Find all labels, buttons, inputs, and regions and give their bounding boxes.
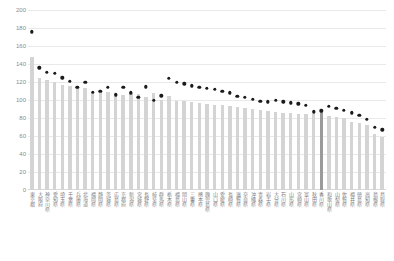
bar[interactable] [45, 80, 48, 190]
bar[interactable] [266, 111, 269, 190]
bar-slot[interactable] [76, 10, 79, 190]
bar[interactable] [106, 92, 109, 190]
bar[interactable] [358, 123, 361, 190]
bar-slot[interactable] [373, 10, 376, 190]
bar[interactable] [144, 97, 147, 190]
bar-slot[interactable] [304, 10, 307, 190]
bar-slot[interactable] [167, 10, 170, 190]
bar[interactable] [327, 116, 330, 190]
data-point-marker[interactable] [160, 94, 163, 97]
bar[interactable] [129, 93, 132, 190]
data-point-marker[interactable] [228, 91, 231, 94]
data-point-marker[interactable] [121, 86, 124, 89]
bar[interactable] [83, 88, 86, 190]
bar-slot[interactable] [114, 10, 117, 190]
bar-slot[interactable] [30, 10, 33, 190]
bar-slot[interactable] [121, 10, 124, 190]
bar[interactable] [160, 100, 163, 190]
data-point-marker[interactable] [45, 70, 48, 73]
bar[interactable] [30, 57, 33, 190]
bar[interactable] [236, 107, 239, 190]
data-point-marker[interactable] [144, 85, 147, 88]
data-point-marker[interactable] [198, 86, 201, 89]
bar-slot[interactable] [137, 10, 140, 190]
bar-slot[interactable] [243, 10, 246, 190]
bar-slot[interactable] [327, 10, 330, 190]
bar-highlighted[interactable] [320, 111, 323, 190]
bar[interactable] [289, 113, 292, 190]
bar-slot[interactable] [358, 10, 361, 190]
bar-slot[interactable] [365, 10, 368, 190]
bar-slot[interactable] [198, 10, 201, 190]
data-point-marker[interactable] [38, 66, 41, 69]
bar[interactable] [259, 110, 262, 190]
bar-slot[interactable] [274, 10, 277, 190]
data-point-marker[interactable] [182, 82, 185, 85]
bar[interactable] [304, 114, 307, 190]
bar-slot[interactable] [259, 10, 262, 190]
bar[interactable] [221, 105, 224, 190]
bar[interactable] [312, 114, 315, 190]
data-point-marker[interactable] [312, 110, 315, 113]
bar-slot[interactable] [175, 10, 178, 190]
bar-slot[interactable] [106, 10, 109, 190]
bar[interactable] [251, 109, 254, 190]
bar-slot[interactable] [152, 10, 155, 190]
data-point-marker[interactable] [236, 95, 239, 98]
data-point-marker[interactable] [205, 87, 208, 90]
data-point-marker[interactable] [213, 88, 216, 91]
bar[interactable] [68, 86, 71, 190]
data-point-marker[interactable] [175, 80, 178, 83]
bar[interactable] [61, 85, 64, 190]
data-point-marker[interactable] [30, 30, 33, 33]
bar[interactable] [76, 87, 79, 190]
bar[interactable] [91, 92, 94, 190]
bar-slot[interactable] [190, 10, 193, 190]
bar[interactable] [205, 104, 208, 190]
data-point-marker[interactable] [327, 105, 330, 108]
bar-slot[interactable] [160, 10, 163, 190]
bar-slot[interactable] [342, 10, 345, 190]
bar[interactable] [297, 114, 300, 191]
bar-slot[interactable] [182, 10, 185, 190]
bar-slot[interactable] [213, 10, 216, 190]
bar[interactable] [198, 103, 201, 190]
data-point-marker[interactable] [289, 101, 292, 104]
data-point-marker[interactable] [68, 79, 71, 82]
bar-slot[interactable] [320, 10, 323, 190]
data-point-marker[interactable] [221, 89, 224, 92]
data-point-marker[interactable] [373, 125, 376, 128]
bar[interactable] [38, 78, 41, 190]
data-point-marker[interactable] [266, 100, 269, 103]
data-point-marker[interactable] [342, 108, 345, 111]
data-point-marker[interactable] [358, 114, 361, 117]
bar-slot[interactable] [83, 10, 86, 190]
bar-slot[interactable] [61, 10, 64, 190]
bar-slot[interactable] [129, 10, 132, 190]
bar-slot[interactable] [221, 10, 224, 190]
bar-slot[interactable] [144, 10, 147, 190]
bar-slot[interactable] [251, 10, 254, 190]
bar-slot[interactable] [380, 10, 383, 190]
data-point-marker[interactable] [281, 100, 284, 103]
bar[interactable] [342, 118, 345, 190]
bar-slot[interactable] [236, 10, 239, 190]
bar-slot[interactable] [53, 10, 56, 190]
bar[interactable] [152, 93, 155, 190]
data-point-marker[interactable] [259, 99, 262, 102]
bar[interactable] [182, 101, 185, 190]
bar[interactable] [53, 82, 56, 190]
bar-slot[interactable] [38, 10, 41, 190]
bar[interactable] [190, 102, 193, 190]
bar-slot[interactable] [68, 10, 71, 190]
data-point-marker[interactable] [190, 84, 193, 87]
bar[interactable] [373, 134, 376, 190]
bar[interactable] [281, 113, 284, 190]
data-point-marker[interactable] [335, 106, 338, 109]
bar[interactable] [167, 96, 170, 190]
bar[interactable] [213, 105, 216, 191]
bar-slot[interactable] [205, 10, 208, 190]
bar[interactable] [350, 122, 353, 190]
data-point-marker[interactable] [61, 76, 64, 79]
data-point-marker[interactable] [297, 102, 300, 105]
